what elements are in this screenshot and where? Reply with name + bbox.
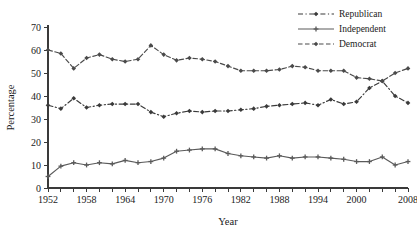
y-axis-title: Percentage [5,84,16,130]
y-tick-label: 50 [31,68,41,79]
x-tick-label: 2000 [347,194,367,205]
legend-label: Democrat [339,39,377,49]
data-point-marker [200,110,205,115]
y-axis: 010203040506070 [31,22,48,194]
y-tick-label: 0 [36,183,41,194]
data-point-marker [239,68,244,73]
data-point-marker [149,110,154,115]
data-point-marker [406,66,411,71]
legend-label: Republican [339,9,383,19]
data-point-marker [187,109,192,114]
data-series-group [46,43,411,179]
data-point-marker [251,68,256,73]
x-tick-label: 1982 [231,194,251,205]
data-point-marker [329,97,334,102]
legend-label: Independent [339,24,386,34]
data-point-marker [84,105,89,110]
data-point-marker [84,56,89,61]
data-point-marker [264,68,269,73]
data-point-marker [303,65,308,70]
x-axis-tick-labels: 1952195819641970197619821988199420002008 [38,194,417,205]
data-point-marker [303,101,308,106]
data-point-marker [226,64,231,69]
data-point-marker [354,75,359,80]
data-point-marker [187,56,192,61]
x-tick-label: 1976 [192,194,212,205]
data-point-marker [213,109,218,114]
x-tick-label: 1970 [154,194,174,205]
legend-marker [314,42,319,47]
x-tick-label: 1988 [269,194,289,205]
x-tick-label: 1952 [38,194,58,205]
data-point-marker [97,103,102,108]
x-axis-title: Year [218,216,238,227]
data-point-marker [161,114,166,119]
y-tick-label: 70 [31,22,41,33]
data-point-marker [239,108,244,113]
x-axis: 1952195819641970197619821988199420002008 [38,188,417,205]
y-tick-label: 20 [31,137,41,148]
data-point-marker [329,68,334,73]
data-point-marker [406,101,411,106]
data-point-marker [123,59,128,64]
legend-item-democrat: Democrat [298,39,377,49]
x-tick-label: 1964 [115,194,135,205]
data-point-marker [110,57,115,62]
legend-item-independent: Independent [298,24,386,34]
chart-container: 010203040506070 195219581964197019761982… [0,0,417,240]
data-point-marker [316,103,321,108]
data-point-marker [367,76,372,81]
data-point-marker [46,103,51,108]
legend-item-republican: Republican [298,9,383,19]
y-tick-label: 10 [31,160,41,171]
legend-marker [314,12,319,17]
data-point-marker [200,57,205,62]
data-point-marker [123,102,128,107]
x-tick-label: 1958 [77,194,97,205]
data-point-marker [46,48,51,53]
party-identification-line-chart: 010203040506070 195219581964197019761982… [0,0,417,240]
y-axis-tick-labels: 010203040506070 [31,22,41,194]
data-point-marker [251,106,256,111]
data-point-marker [264,104,269,109]
data-point-marker [136,102,141,107]
y-tick-label: 30 [31,114,41,125]
data-point-marker [290,64,295,69]
data-point-marker [226,109,231,114]
x-axis-ticks [48,188,408,192]
x-tick-label: 1994 [308,194,328,205]
data-point-marker [110,102,115,107]
data-point-marker [174,58,179,63]
data-point-marker [213,59,218,64]
series-independent [46,147,411,179]
data-point-marker [277,103,282,108]
data-point-marker [341,68,346,73]
data-point-marker [341,102,346,107]
data-point-marker [277,67,282,72]
y-tick-label: 60 [31,45,41,56]
y-tick-label: 40 [31,91,41,102]
series-republican [46,79,411,119]
data-point-marker [316,68,321,73]
series-line [48,45,408,81]
x-tick-label: 2008 [398,194,417,205]
chart-legend: RepublicanIndependentDemocrat [298,9,386,49]
data-point-marker [97,52,102,57]
data-point-marker [290,102,295,107]
data-point-marker [174,111,179,116]
